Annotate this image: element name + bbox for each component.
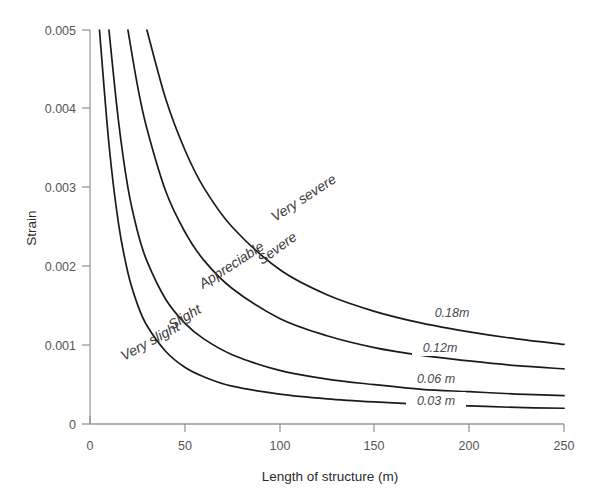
x-tick-label: 250: [554, 439, 575, 453]
y-tick-label: 0.003: [45, 181, 76, 195]
strain-vs-length-chart: 0.005 0.004 0.003 0.002 0.001 0 0 50 100…: [0, 0, 601, 492]
x-tick-label: 50: [178, 439, 192, 453]
chart-svg: 0.005 0.004 0.003 0.002 0.001 0 0 50 100…: [0, 0, 601, 492]
x-axis-title: Length of structure (m): [262, 469, 399, 484]
x-tick-label: 150: [364, 439, 385, 453]
y-tick-label: 0: [69, 418, 76, 432]
x-tick-label: 100: [270, 439, 291, 453]
y-tick-label: 0.005: [45, 24, 76, 38]
curve-label-012: 0.12m: [423, 341, 458, 355]
y-tick-label: 0.002: [45, 260, 76, 274]
curve-label-018: 0.18m: [435, 306, 470, 320]
y-tick-label: 0.004: [45, 102, 76, 116]
y-axis-title: Strain: [24, 210, 39, 245]
x-tick-label: 0: [87, 439, 94, 453]
x-tick-label: 200: [459, 439, 480, 453]
y-tick-label: 0.001: [45, 339, 76, 353]
curve-label-003: 0.03 m: [417, 394, 455, 408]
curve-label-006: 0.06 m: [417, 372, 455, 386]
